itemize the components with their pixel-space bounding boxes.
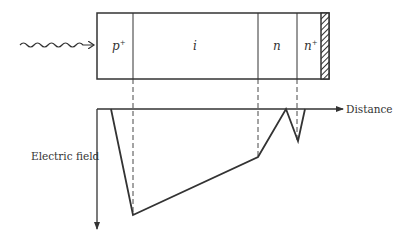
region-label-intrinsic: i	[193, 39, 197, 53]
region-label-n-plus: n+	[304, 39, 318, 53]
x-axis-label: Distance	[346, 103, 393, 115]
region-label-n: n	[273, 39, 281, 53]
y-axis-label: Electric field	[31, 150, 100, 162]
device-body	[97, 13, 329, 79]
electric-field-curve	[111, 109, 305, 215]
metal-contact	[321, 13, 329, 79]
region-label-p-plus: p+	[112, 39, 126, 53]
incident-light-wavy-arrow	[20, 43, 94, 47]
pin-photodiode-diagram: p+ i n n+ Distance Electric field	[0, 0, 400, 240]
